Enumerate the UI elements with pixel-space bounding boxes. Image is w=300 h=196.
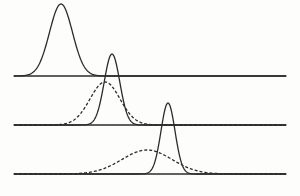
panel-top (14, 4, 286, 76)
panel-bottom (14, 103, 286, 174)
middle-dashed-peak (14, 82, 286, 125)
bottom-solid-peak (14, 103, 286, 174)
panels-group (14, 4, 286, 174)
top-solid-peak (14, 4, 286, 76)
figure-root (0, 0, 300, 196)
bottom-dashed-peak (14, 150, 286, 174)
panel-middle (14, 54, 286, 125)
middle-solid-peak (14, 54, 286, 125)
stacked-gaussian-plot (0, 0, 300, 196)
